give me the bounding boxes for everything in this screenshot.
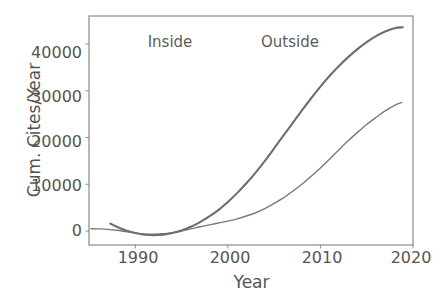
axis-ticks: [86, 44, 414, 248]
series-line-inside: [91, 102, 402, 234]
chart-figure: Cum. Cites/Year Year 0 10000 20000 30000…: [0, 0, 441, 306]
plot-area: [0, 0, 441, 306]
axes-frame: [89, 16, 413, 245]
data-series-group: [91, 27, 403, 235]
